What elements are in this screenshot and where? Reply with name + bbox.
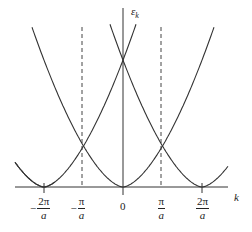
k-axis-label: k xyxy=(234,192,239,203)
tick-label: 2πa xyxy=(195,196,209,221)
energy-axis-label: εk xyxy=(131,6,139,20)
tick-label: 0 xyxy=(120,201,126,212)
energy-parabolas xyxy=(15,24,228,187)
tick-label: πa xyxy=(157,196,166,221)
tick-label: −πa xyxy=(71,196,86,221)
tick-label: −2πa xyxy=(30,196,50,221)
